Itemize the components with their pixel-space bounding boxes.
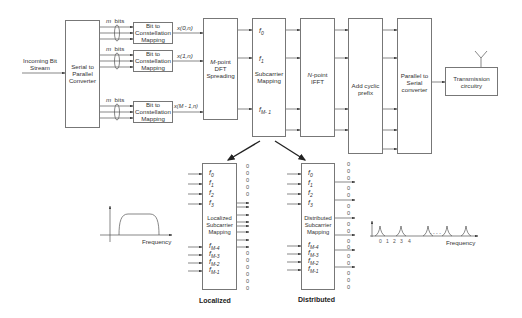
b2c2-line2: Constellation bbox=[134, 108, 172, 115]
localized-mapping-block: f0 f1 f2 f3 Localized Subcarrier Mapping… bbox=[202, 163, 237, 290]
dist-line2: Subcarrier bbox=[302, 222, 334, 229]
f1-label: f1 bbox=[259, 55, 264, 64]
loc-fM1: fM-1 bbox=[209, 266, 220, 275]
loc-line2: Subcarrier bbox=[203, 222, 236, 229]
input-label-line2: Stream bbox=[18, 64, 62, 71]
s2p-line1: Serial to bbox=[66, 63, 99, 70]
loc-zero: 0 bbox=[246, 170, 249, 176]
dist-tick-0: 0 bbox=[379, 238, 382, 244]
distributed-caption: Distributed bbox=[298, 296, 335, 303]
f0-label: f0 bbox=[259, 27, 264, 36]
dft-line2: DFT bbox=[204, 65, 237, 72]
ifft-block: N-point IFFT bbox=[300, 18, 335, 137]
loc-zero: 0 bbox=[246, 264, 249, 270]
b2c1-line3: Mapping bbox=[134, 65, 172, 72]
loc-zero: 0 bbox=[246, 177, 249, 183]
dist-zero: 0 bbox=[347, 175, 350, 181]
b2c2-line3: Mapping bbox=[134, 116, 172, 123]
p2s-line2: Serial bbox=[398, 79, 431, 86]
s2p-line3: Converter bbox=[66, 78, 99, 85]
loc-zero: 0 bbox=[246, 257, 249, 263]
localized-frequency-label: Frequency bbox=[142, 238, 171, 245]
dist-f3: f3 bbox=[308, 199, 313, 208]
loc-f0: f0 bbox=[209, 169, 214, 178]
cyclic-prefix-block: Add cyclic prefix bbox=[348, 18, 383, 154]
dft-line1: M-point bbox=[204, 58, 237, 65]
dist-f0: f0 bbox=[308, 169, 313, 178]
dist-tick-4: 4 bbox=[408, 238, 411, 244]
scm-line1: Subcarrier bbox=[253, 70, 285, 77]
serial-to-parallel-block: Serial to Parallel Converter bbox=[65, 20, 100, 128]
dist-zero: 0 bbox=[347, 185, 350, 191]
loc-zero: 0 bbox=[246, 278, 249, 284]
loc-f3: f3 bbox=[209, 199, 214, 208]
fM1-label: fM- 1 bbox=[259, 106, 271, 115]
dist-zero: 0 bbox=[347, 210, 350, 216]
loc-zero: 0 bbox=[246, 250, 249, 256]
antenna-icon bbox=[474, 50, 488, 67]
m-bits-label-2: m bits bbox=[106, 96, 124, 103]
cp-line1: Add cyclic bbox=[349, 82, 382, 89]
tx-line1: Transmission bbox=[446, 74, 497, 81]
b2c1-line2: Constellation bbox=[134, 57, 172, 64]
dist-zero: 0 bbox=[347, 161, 350, 167]
dist-line1: Distributed bbox=[302, 215, 334, 222]
loc-line3: Mapping bbox=[203, 230, 236, 237]
x0n-label: x(0,n) bbox=[177, 24, 193, 31]
subcarrier-mapping-block: f0 f1 Subcarrier Mapping fM- 1 bbox=[252, 18, 286, 137]
dist-zero: 0 bbox=[347, 270, 350, 276]
loc-f2: f2 bbox=[209, 189, 214, 198]
dist-zero: 0 bbox=[347, 168, 350, 174]
dft-spreading-block: M-point DFT Spreading bbox=[203, 18, 238, 120]
dist-tick-2: 2 bbox=[393, 238, 396, 244]
p2s-line1: Parallel to bbox=[398, 72, 431, 79]
b2c2-line1: Bit to bbox=[134, 101, 172, 108]
b2c0-line2: Constellation bbox=[134, 29, 172, 36]
m-bits-label-0: m bits bbox=[106, 17, 124, 24]
dist-zero: 0 bbox=[347, 253, 350, 259]
dist-line3: Mapping bbox=[302, 230, 334, 237]
dist-zero: 0 bbox=[347, 284, 350, 290]
dft-line3: Spreading bbox=[204, 73, 237, 80]
transmission-circuitry-block: Transmission circuitry bbox=[445, 67, 498, 96]
dist-zero: 0 bbox=[347, 192, 350, 198]
loc-zero: 0 bbox=[246, 271, 249, 277]
loc-zero: 0 bbox=[246, 191, 249, 197]
scm-line2: Mapping bbox=[253, 77, 285, 84]
loc-zero: 0 bbox=[246, 285, 249, 291]
bit-to-constellation-block-0: Bit to Constellation Mapping bbox=[133, 22, 173, 44]
localized-caption: Localized bbox=[199, 297, 231, 304]
ifft-line1: N-point bbox=[301, 70, 334, 77]
loc-f1: f1 bbox=[209, 179, 214, 188]
s2p-line2: Parallel bbox=[66, 70, 99, 77]
p2s-line3: converter bbox=[398, 87, 431, 94]
dist-zero: 0 bbox=[347, 244, 350, 250]
input-label-line1: Incoming Bit bbox=[18, 57, 62, 64]
dist-f1: f1 bbox=[308, 179, 313, 188]
distributed-mapping-block: f0 f1 f2 f3 Distributed Subcarrier Mappi… bbox=[301, 163, 335, 290]
cp-line2: prefix bbox=[349, 89, 382, 96]
dist-zero: 0 bbox=[347, 260, 350, 266]
x1n-label: x(1,n) bbox=[177, 52, 193, 59]
b2c1-line1: Bit to bbox=[134, 50, 172, 57]
dist-zero: 0 bbox=[347, 203, 350, 209]
dist-zero: 0 bbox=[347, 228, 350, 234]
ifft-line2: IFFT bbox=[301, 78, 334, 85]
loc-zero: 0 bbox=[246, 184, 249, 190]
bit-to-constellation-block-1: Bit to Constellation Mapping bbox=[133, 50, 173, 72]
dist-fM1: fM-1 bbox=[308, 265, 319, 274]
distributed-frequency-label: Frequency bbox=[446, 239, 475, 246]
dist-ellipsis: - - - - bbox=[430, 230, 441, 236]
b2c0-line3: Mapping bbox=[134, 37, 172, 44]
loc-zero: 0 bbox=[246, 163, 249, 169]
parallel-to-serial-block: Parallel to Serial converter bbox=[397, 18, 432, 154]
m-bits-label-1: m bits bbox=[106, 45, 124, 52]
tx-line2: circuitry bbox=[446, 82, 497, 89]
dist-zero: 0 bbox=[347, 221, 350, 227]
incoming-bit-stream-label: Incoming Bit Stream bbox=[18, 57, 62, 71]
bit-to-constellation-block-2: Bit to Constellation Mapping bbox=[133, 101, 173, 123]
dist-zero: 0 bbox=[347, 277, 350, 283]
xM1n-label: x(M - 1,n) bbox=[174, 103, 198, 110]
b2c0-line1: Bit to bbox=[134, 22, 172, 29]
dist-f2: f2 bbox=[308, 189, 313, 198]
